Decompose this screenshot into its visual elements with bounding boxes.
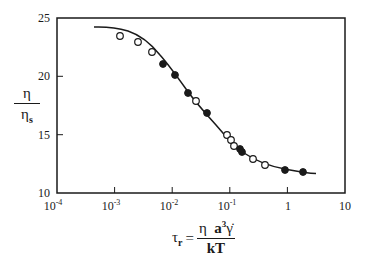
data-point-filled (185, 90, 192, 97)
data-point-filled (282, 167, 289, 174)
x-label-fraction: η a3γ̇ kT (197, 219, 235, 257)
y-axis-label: η ηs (14, 86, 40, 125)
y-label-denominator: ηs (14, 104, 40, 125)
x-tick-1e-1: 10-1 (218, 198, 237, 213)
x-label-denominator: kT (207, 239, 225, 257)
x-axis (115, 187, 288, 193)
y-tick-15: 15 (38, 128, 50, 142)
x-tick-1e-4: 10-4 (44, 198, 63, 213)
x-tick-1e-2: 10-2 (160, 198, 179, 213)
x-tick-labels: 10-4 10-3 10-2 10-1 1 10 (44, 198, 351, 213)
y-label-numerator: η (14, 86, 40, 104)
data-point-filled (204, 110, 211, 117)
data-point-open (262, 162, 269, 169)
y-tick-10: 10 (38, 186, 50, 200)
x-label-lhs: τr (172, 229, 182, 248)
data-point-filled (239, 149, 246, 156)
data-point-filled (172, 72, 179, 79)
series-filled-circles (160, 61, 307, 176)
fit-curve (94, 27, 316, 174)
x-axis-label: τr = η a3γ̇ kT (172, 221, 235, 255)
data-point-open (149, 49, 156, 56)
x-tick-1e-3: 10-3 (102, 198, 121, 213)
x-label-equals: = (185, 230, 193, 247)
data-point-open (117, 33, 124, 40)
data-point-open (250, 156, 257, 163)
x-tick-10: 10 (339, 199, 351, 213)
series-open-circles (117, 33, 269, 169)
plot-frame (57, 18, 345, 193)
x-tick-1: 1 (285, 199, 291, 213)
y-tick-20: 20 (38, 69, 50, 83)
data-point-filled (300, 169, 307, 176)
x-label-numerator: η a3γ̇ (197, 219, 235, 239)
y-axis (57, 76, 63, 134)
chart: 25 20 15 10 10-4 10-3 10-2 10-1 1 10 (0, 0, 368, 257)
data-point-filled (160, 61, 167, 68)
y-tick-25: 25 (38, 11, 50, 25)
data-point-open (193, 98, 200, 105)
data-point-open (135, 39, 142, 46)
